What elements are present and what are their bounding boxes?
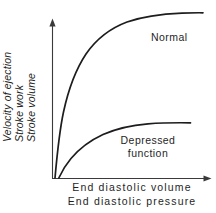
curve-label-normal: Normal bbox=[151, 31, 188, 44]
cardiac-function-curve-figure: Velocity of ejection Stroke work Stroke … bbox=[0, 0, 216, 213]
curve-label-depressed-function: Depressed function bbox=[117, 134, 179, 159]
y-axis-arrow-icon bbox=[49, 19, 55, 27]
x-axis-title-end-diastolic-volume: End diastolic volume bbox=[52, 181, 212, 195]
curve-label-depressed-line-1: Depressed bbox=[117, 134, 179, 147]
x-axis-title-group: End diastolic volume End diastolic press… bbox=[52, 181, 212, 208]
x-axis-title-end-diastolic-pressure: End diastolic pressure bbox=[52, 195, 212, 209]
curve-label-depressed-line-2: function bbox=[117, 147, 179, 160]
